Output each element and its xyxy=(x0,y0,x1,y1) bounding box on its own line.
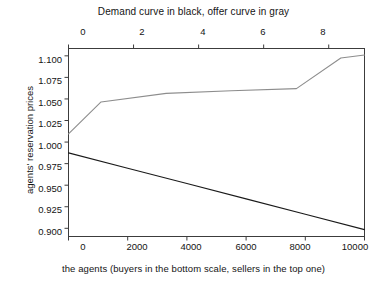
demand-curve-line xyxy=(69,153,365,230)
x-top-axis-ticks xyxy=(69,45,329,49)
x-bottom-axis-ticks xyxy=(69,237,365,241)
y-axis-ticks xyxy=(65,56,69,228)
plot-canvas xyxy=(0,0,387,292)
plot-frame xyxy=(69,49,365,237)
offer-curve-line xyxy=(69,55,365,134)
chart-figure: Demand curve in black, offer curve in gr… xyxy=(0,0,387,292)
